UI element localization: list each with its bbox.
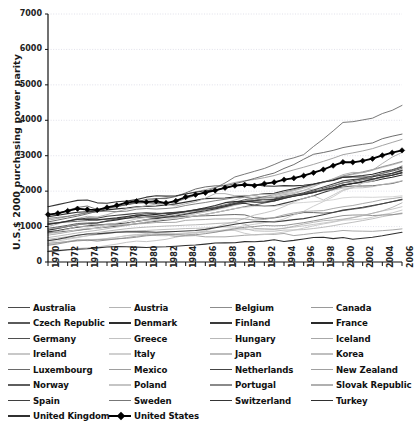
- y-tick-label: 4000: [8, 115, 42, 124]
- legend-label: Turkey: [336, 396, 368, 406]
- y-tick-label: 1000: [8, 222, 42, 231]
- legend-swatch-line-icon: [210, 334, 232, 344]
- legend-label: Iceland: [336, 334, 370, 344]
- x-tick-label: 1974: [91, 246, 100, 268]
- x-tick-label: 1984: [189, 246, 198, 268]
- legend-swatch-line-icon: [109, 365, 131, 375]
- legend-label: France: [336, 318, 368, 328]
- legend-swatch-line-icon: [210, 396, 232, 406]
- legend-swatch-line-icon: [311, 318, 333, 328]
- legend-swatch-line-icon: [109, 349, 131, 359]
- legend-item[interactable]: Switzerland: [210, 396, 311, 406]
- legend-swatch-line-icon: [109, 303, 131, 313]
- legend-label: Ireland: [33, 349, 67, 359]
- legend-item[interactable]: Poland: [109, 380, 210, 390]
- legend-item[interactable]: Belgium: [210, 303, 311, 313]
- x-tick-label: 2002: [366, 246, 375, 268]
- x-tick-label: 1978: [130, 246, 139, 268]
- legend-label: Switzerland: [235, 396, 291, 406]
- legend-item[interactable]: Sweden: [109, 396, 210, 406]
- legend-swatch-line-icon: [210, 365, 232, 375]
- legend-label: Sweden: [134, 396, 171, 406]
- x-tick-label: 2000: [347, 246, 356, 268]
- legend-item[interactable]: United Kingdom: [8, 411, 109, 421]
- legend-item[interactable]: Canada: [311, 303, 412, 313]
- legend-item[interactable]: Ireland: [8, 349, 109, 359]
- legend-row: IrelandItalyJapanKorea: [8, 347, 412, 363]
- legend-label: Poland: [134, 380, 167, 390]
- x-tick-label: 1972: [71, 246, 80, 268]
- legend-label: United States: [134, 411, 199, 421]
- legend-label: Spain: [33, 396, 60, 406]
- legend-item[interactable]: Norway: [8, 380, 109, 390]
- legend-swatch-line-icon: [8, 349, 30, 359]
- legend-label: Norway: [33, 380, 69, 390]
- x-tick-label: 1970: [52, 246, 61, 268]
- legend-label: Belgium: [235, 303, 274, 313]
- x-tick-label: 1998: [327, 246, 336, 268]
- legend-swatch-diamond-line-icon: [109, 411, 131, 421]
- legend-label: Mexico: [134, 365, 167, 375]
- legend-swatch-line-icon: [109, 334, 131, 344]
- legend-item[interactable]: Finland: [210, 318, 311, 328]
- legend-item[interactable]: Luxembourg: [8, 365, 109, 375]
- legend-item[interactable]: Turkey: [311, 396, 412, 406]
- grid-lines: [48, 14, 402, 227]
- legend-label: Finland: [235, 318, 270, 328]
- legend-item[interactable]: Austria: [109, 303, 210, 313]
- legend-item[interactable]: Portugal: [210, 380, 311, 390]
- legend-item[interactable]: United States: [109, 411, 210, 421]
- series-lines: [45, 105, 404, 251]
- legend-swatch-line-icon: [109, 396, 131, 406]
- legend-item[interactable]: Spain: [8, 396, 109, 406]
- chart-legend: AustraliaAustriaBelgiumCanadaCzech Repub…: [8, 300, 412, 412]
- legend-label: Denmark: [134, 318, 177, 328]
- legend-swatch-line-icon: [8, 334, 30, 344]
- legend-item[interactable]: Czech Republic: [8, 318, 109, 328]
- legend-swatch-line-icon: [109, 380, 131, 390]
- x-tick-label: 1990: [248, 246, 257, 268]
- legend-label: Germany: [33, 334, 76, 344]
- legend-item[interactable]: France: [311, 318, 412, 328]
- legend-label: Japan: [235, 349, 262, 359]
- legend-item[interactable]: Japan: [210, 349, 311, 359]
- legend-swatch-line-icon: [311, 380, 333, 390]
- legend-item[interactable]: Iceland: [311, 334, 412, 344]
- legend-item[interactable]: Greece: [109, 334, 210, 344]
- legend-label: Luxembourg: [33, 365, 92, 375]
- legend-item[interactable]: Korea: [311, 349, 412, 359]
- x-tick-label: 1982: [170, 246, 179, 268]
- y-tick-label: 6000: [8, 44, 42, 53]
- legend-item[interactable]: Australia: [8, 303, 109, 313]
- legend-swatch-line-icon: [8, 411, 30, 421]
- legend-item[interactable]: Netherlands: [210, 365, 311, 375]
- legend-label: Australia: [33, 303, 76, 313]
- x-tick-label: 1980: [150, 246, 159, 268]
- x-tick-label: 1976: [111, 246, 120, 268]
- legend-swatch-line-icon: [109, 318, 131, 328]
- x-tick-label: 1986: [209, 246, 218, 268]
- legend-item[interactable]: Italy: [109, 349, 210, 359]
- legend-item[interactable]: Denmark: [109, 318, 210, 328]
- legend-item[interactable]: Mexico: [109, 365, 210, 375]
- y-tick-label: 2000: [8, 186, 42, 195]
- y-tick-label: 3000: [8, 151, 42, 160]
- legend-swatch-line-icon: [210, 380, 232, 390]
- legend-item[interactable]: Germany: [8, 334, 109, 344]
- legend-swatch-line-icon: [8, 303, 30, 313]
- x-tick-label: 1992: [268, 246, 277, 268]
- legend-item[interactable]: Hungary: [210, 334, 311, 344]
- legend-row: AustraliaAustriaBelgiumCanada: [8, 300, 412, 316]
- legend-swatch-line-icon: [210, 349, 232, 359]
- legend-label: Hungary: [235, 334, 276, 344]
- legend-label: United Kingdom: [33, 411, 110, 421]
- legend-swatch-line-icon: [8, 396, 30, 406]
- legend-item[interactable]: Slovak Republic: [311, 380, 412, 390]
- x-tick-label: 2004: [386, 246, 395, 268]
- legend-item[interactable]: New Zealand: [311, 365, 412, 375]
- legend-label: Korea: [336, 349, 364, 359]
- y-tick-label: 5000: [8, 80, 42, 89]
- legend-label: Greece: [134, 334, 167, 344]
- legend-swatch-line-icon: [210, 303, 232, 313]
